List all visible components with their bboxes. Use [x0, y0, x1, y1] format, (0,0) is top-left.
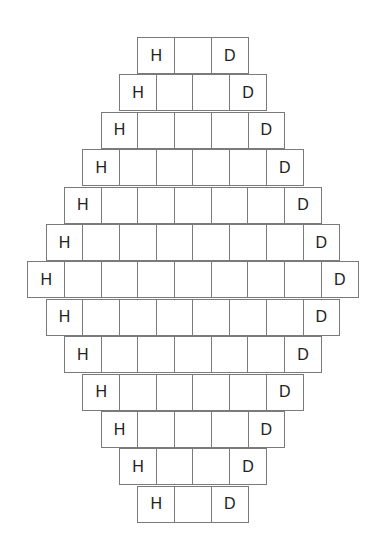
grid-cell: [247, 261, 285, 298]
grid-cell: [82, 299, 120, 336]
cell-label-h: H: [64, 336, 102, 373]
grid-row: HD: [101, 112, 285, 149]
cell-label-h: H: [46, 224, 84, 261]
grid-cell: [229, 149, 267, 186]
grid-cell: [174, 411, 212, 448]
brick-grid: HDHDHDHDHDHDHDHDHDHDHDHDHD: [0, 0, 382, 555]
grid-cell: [101, 336, 139, 373]
grid-cell: [247, 187, 285, 224]
grid-cell: [211, 336, 249, 373]
cell-label-d: D: [303, 299, 341, 336]
cell-label-d: D: [248, 112, 286, 149]
grid-cell: [156, 149, 194, 186]
grid-cell: [174, 261, 212, 298]
grid-cell: [82, 224, 120, 261]
grid-cell: [211, 187, 249, 224]
grid-row: HD: [46, 299, 341, 336]
grid-cell: [137, 187, 175, 224]
cell-label-d: D: [211, 37, 249, 74]
grid-row: HD: [64, 187, 322, 224]
grid-row: HD: [101, 411, 285, 448]
cell-label-h: H: [64, 187, 102, 224]
grid-cell: [119, 374, 157, 411]
grid-cell: [211, 411, 249, 448]
grid-cell: [192, 448, 230, 485]
cell-label-h: H: [119, 74, 157, 111]
cell-label-d: D: [266, 149, 304, 186]
grid-cell: [101, 261, 139, 298]
grid-row: HD: [137, 486, 248, 523]
grid-cell: [137, 261, 175, 298]
grid-cell: [174, 37, 212, 74]
cell-label-d: D: [321, 261, 359, 298]
grid-cell: [211, 261, 249, 298]
grid-row: HD: [27, 261, 358, 298]
cell-label-d: D: [229, 74, 267, 111]
grid-cell: [101, 187, 139, 224]
grid-row: HD: [119, 448, 267, 485]
grid-cell: [192, 224, 230, 261]
grid-cell: [284, 261, 322, 298]
cell-label-d: D: [284, 336, 322, 373]
cell-label-d: D: [284, 187, 322, 224]
cell-label-d: D: [248, 411, 286, 448]
cell-label-d: D: [266, 374, 304, 411]
cell-label-h: H: [82, 149, 120, 186]
grid-cell: [119, 224, 157, 261]
grid-cell: [229, 224, 267, 261]
cell-label-h: H: [137, 486, 175, 523]
cell-label-h: H: [119, 448, 157, 485]
grid-cell: [266, 299, 304, 336]
grid-cell: [174, 112, 212, 149]
grid-cell: [137, 411, 175, 448]
grid-cell: [174, 486, 212, 523]
grid-cell: [229, 374, 267, 411]
grid-cell: [266, 224, 304, 261]
cell-label-h: H: [82, 374, 120, 411]
grid-row: HD: [64, 336, 322, 373]
grid-row: HD: [82, 374, 303, 411]
grid-cell: [156, 299, 194, 336]
grid-cell: [119, 149, 157, 186]
cell-label-h: H: [137, 37, 175, 74]
grid-cell: [137, 336, 175, 373]
grid-cell: [192, 299, 230, 336]
grid-cell: [247, 336, 285, 373]
grid-cell: [156, 448, 194, 485]
grid-cell: [137, 112, 175, 149]
grid-cell: [156, 374, 194, 411]
grid-cell: [192, 149, 230, 186]
cell-label-h: H: [27, 261, 65, 298]
grid-cell: [192, 74, 230, 111]
grid-cell: [64, 261, 102, 298]
grid-row: HD: [137, 37, 248, 74]
grid-cell: [192, 374, 230, 411]
cell-label-d: D: [229, 448, 267, 485]
cell-label-h: H: [46, 299, 84, 336]
grid-cell: [119, 299, 157, 336]
cell-label-d: D: [211, 486, 249, 523]
grid-cell: [174, 336, 212, 373]
cell-label-d: D: [303, 224, 341, 261]
grid-cell: [211, 112, 249, 149]
grid-cell: [156, 224, 194, 261]
cell-label-h: H: [101, 411, 139, 448]
grid-row: HD: [119, 74, 267, 111]
cell-label-h: H: [101, 112, 139, 149]
grid-cell: [229, 299, 267, 336]
grid-cell: [156, 74, 194, 111]
grid-row: HD: [82, 149, 303, 186]
grid-row: HD: [46, 224, 341, 261]
grid-cell: [174, 187, 212, 224]
